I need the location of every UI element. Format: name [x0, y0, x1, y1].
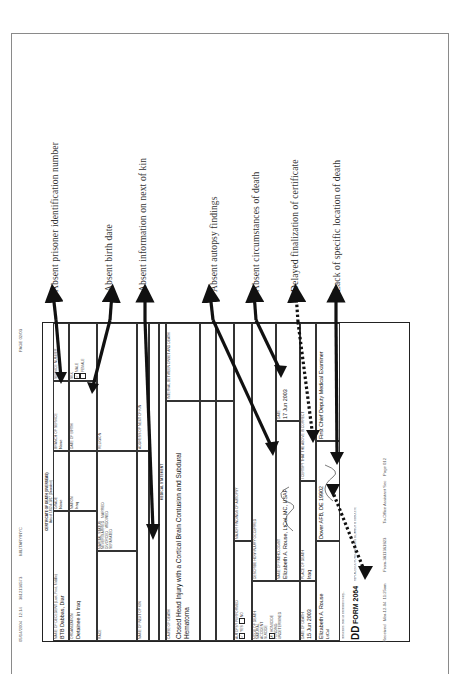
arrow-prisoner-id	[56, 320, 61, 378]
arrow-birth-date	[93, 320, 110, 386]
